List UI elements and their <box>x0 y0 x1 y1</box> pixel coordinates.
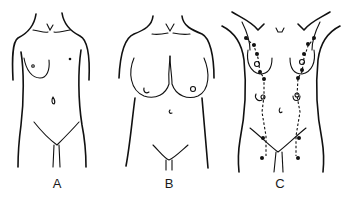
figure-c <box>220 0 342 175</box>
figure-b <box>110 0 230 175</box>
torso-c-drawing <box>220 0 342 175</box>
milk-line-dots <box>244 36 316 160</box>
figure-a <box>0 0 115 175</box>
torso-a-drawing <box>0 0 115 175</box>
figure-label-a: A <box>47 176 67 191</box>
figure-label-b: B <box>159 176 179 191</box>
figure-label-c: C <box>270 176 290 191</box>
torso-b-drawing <box>110 0 230 175</box>
